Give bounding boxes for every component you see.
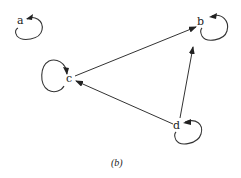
edge-d-to-b <box>180 47 193 118</box>
self-loop-c <box>42 60 69 92</box>
figure-caption: (b) <box>111 157 123 169</box>
node-a-label: a <box>17 14 24 27</box>
edge-d-to-c <box>76 81 173 124</box>
node-c-label: c <box>66 72 72 85</box>
edge-c-to-b <box>75 27 196 76</box>
directed-graph: a b c d (b) <box>0 0 241 178</box>
self-loop-b <box>201 13 228 40</box>
node-b-label: b <box>197 15 204 28</box>
node-d-label: d <box>173 119 180 132</box>
